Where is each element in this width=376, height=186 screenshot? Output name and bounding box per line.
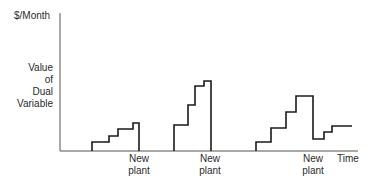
dual-variable-series-1 <box>92 123 139 151</box>
new-plant-annotation: New plant <box>114 153 164 177</box>
y-axis-title-line: of <box>17 74 53 86</box>
annotation-line: New <box>114 153 164 165</box>
annotation-line: plant <box>288 165 338 177</box>
dual-variable-series-3 <box>256 96 352 151</box>
new-plant-annotation: New plant <box>185 153 235 177</box>
y-axis-unit-label: $/Month <box>14 10 50 22</box>
y-axis-title: Value of Dual Variable <box>17 62 53 110</box>
y-axis-title-line: Dual <box>17 86 53 98</box>
annotation-line: plant <box>114 165 164 177</box>
annotation-line: New <box>288 153 338 165</box>
dual-variable-series-2 <box>174 81 211 151</box>
annotation-line: New <box>185 153 235 165</box>
x-axis-title: Time <box>337 153 359 165</box>
y-axis-title-line: Value <box>17 62 53 74</box>
new-plant-annotation: New plant <box>288 153 338 177</box>
y-axis-title-line: Variable <box>17 98 53 110</box>
annotation-line: plant <box>185 165 235 177</box>
